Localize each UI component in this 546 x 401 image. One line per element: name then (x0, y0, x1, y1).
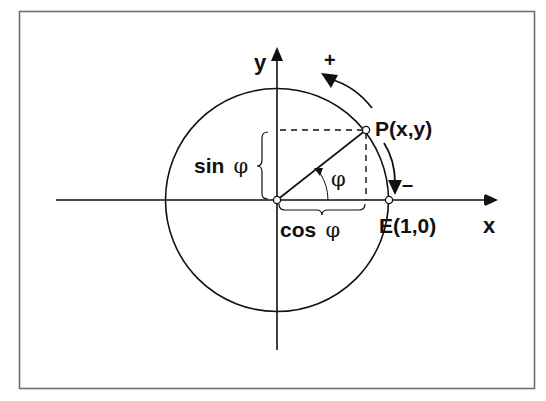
point-e (385, 196, 392, 203)
y-axis-arrowhead-icon (271, 47, 283, 61)
radius-op (277, 130, 366, 200)
angle-arc (320, 173, 328, 200)
angle-phi-label: φ (331, 167, 346, 191)
x-axis-label: x (483, 213, 496, 238)
cos-brace (279, 204, 365, 215)
point-e-label: E(1,0) (379, 214, 436, 237)
negative-direction-arrowhead-icon (388, 180, 402, 195)
y-axis-label: y (254, 50, 267, 75)
point-p-label: P(x,y) (375, 117, 432, 140)
sin-phi-label: sin φ (194, 154, 248, 178)
positive-direction-arc (330, 79, 372, 108)
minus-sign: – (402, 173, 413, 195)
unit-circle-diagram: y x + – P(x,y) E(1,0) sin φ cos φ φ (0, 0, 546, 401)
plus-sign: + (324, 49, 336, 71)
sin-brace (257, 132, 268, 199)
point-p (362, 126, 369, 133)
origin-point (273, 196, 280, 203)
cos-phi-label: cos φ (280, 218, 340, 242)
x-axis-arrowhead-icon (485, 194, 498, 206)
